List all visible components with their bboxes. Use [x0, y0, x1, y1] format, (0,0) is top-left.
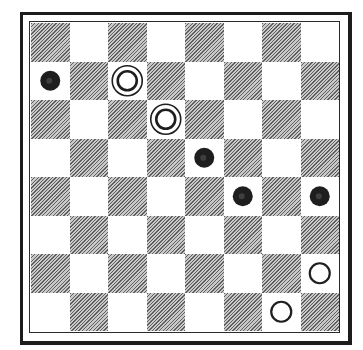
dark-square-r6c6: [262, 254, 301, 293]
light-square-r6c3: [147, 254, 186, 293]
dark-square-r3c1: [70, 139, 109, 178]
light-square-r2c1: [70, 100, 109, 139]
dark-square-r1c7: [301, 62, 340, 101]
light-square-r3c4: [185, 139, 224, 178]
light-square-r0c1: [70, 23, 109, 62]
light-square-r1c2: [108, 62, 147, 101]
light-square-r7c6: [262, 293, 301, 332]
light-square-r2c3: [147, 100, 186, 139]
dark-square-r5c7: [301, 216, 340, 255]
light-square-r6c5: [224, 254, 263, 293]
dark-square-r0c6: [262, 23, 301, 62]
light-square-r7c0: [31, 293, 70, 332]
dark-square-r0c0: [31, 23, 70, 62]
light-square-r1c0: [31, 62, 70, 101]
dark-square-r1c3: [147, 62, 186, 101]
light-square-r1c6: [262, 62, 301, 101]
dark-square-r2c4: [185, 100, 224, 139]
light-square-r5c6: [262, 216, 301, 255]
light-square-r4c3: [147, 177, 186, 216]
dark-square-r4c4: [185, 177, 224, 216]
light-square-r5c4: [185, 216, 224, 255]
checkerboard: [31, 23, 339, 331]
light-square-r7c2: [108, 293, 147, 332]
dark-square-r3c3: [147, 139, 186, 178]
light-square-r0c3: [147, 23, 186, 62]
light-square-r5c0: [31, 216, 70, 255]
dark-square-r7c3: [147, 293, 186, 332]
dark-square-r7c1: [70, 293, 109, 332]
light-square-r5c2: [108, 216, 147, 255]
light-square-r4c1: [70, 177, 109, 216]
dark-square-r7c5: [224, 293, 263, 332]
dark-square-r5c1: [70, 216, 109, 255]
light-square-r6c1: [70, 254, 109, 293]
dark-square-r3c7: [301, 139, 340, 178]
dark-square-r6c2: [108, 254, 147, 293]
dark-square-r6c0: [31, 254, 70, 293]
dark-square-r5c3: [147, 216, 186, 255]
dark-square-r2c2: [108, 100, 147, 139]
dark-square-r4c0: [31, 177, 70, 216]
light-square-r4c5: [224, 177, 263, 216]
light-square-r2c7: [301, 100, 340, 139]
light-square-r1c4: [185, 62, 224, 101]
dark-square-r0c2: [108, 23, 147, 62]
light-square-r4c7: [301, 177, 340, 216]
dark-square-r4c2: [108, 177, 147, 216]
dark-square-r4c6: [262, 177, 301, 216]
dark-square-r2c6: [262, 100, 301, 139]
light-square-r3c2: [108, 139, 147, 178]
light-square-r6c7: [301, 254, 340, 293]
light-square-r0c7: [301, 23, 340, 62]
dark-square-r2c0: [31, 100, 70, 139]
light-square-r3c6: [262, 139, 301, 178]
dark-square-r3c5: [224, 139, 263, 178]
light-square-r7c4: [185, 293, 224, 332]
light-square-r2c5: [224, 100, 263, 139]
dark-square-r5c5: [224, 216, 263, 255]
light-square-r0c5: [224, 23, 263, 62]
dark-square-r7c7: [301, 293, 340, 332]
light-square-r3c0: [31, 139, 70, 178]
dark-square-r1c5: [224, 62, 263, 101]
dark-square-r0c4: [185, 23, 224, 62]
dark-square-r1c1: [70, 62, 109, 101]
dark-square-r6c4: [185, 254, 224, 293]
cropped-caption-fragment: · · · · · · ·: [120, 0, 360, 4]
